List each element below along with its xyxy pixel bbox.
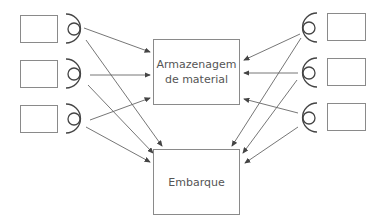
storage-box: Armazenagem de material <box>153 39 240 105</box>
storage-label-line2: de material <box>156 72 236 87</box>
right-receptacle-icons <box>303 13 318 132</box>
storage-label-line1: Armazenagem <box>156 57 236 72</box>
left-receptacle-icons <box>66 14 81 133</box>
shipping-label: Embarque <box>168 175 224 190</box>
shipping-box: Embarque <box>153 149 240 215</box>
